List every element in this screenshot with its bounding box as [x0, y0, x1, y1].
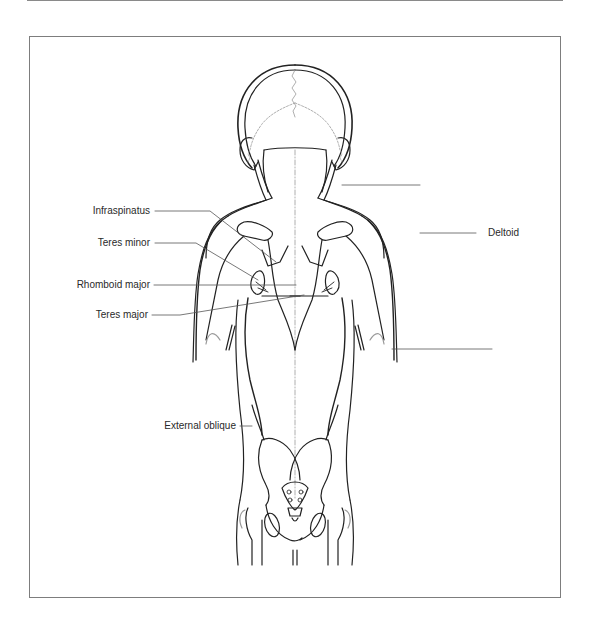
- pelvis: [237, 438, 354, 565]
- label-teres-minor: Teres minor: [66, 237, 150, 249]
- label-rhomboid-major: Rhomboid major: [56, 279, 150, 291]
- label-infraspinatus: Infraspinatus: [66, 205, 150, 217]
- label-external-oblique: External oblique: [140, 420, 236, 432]
- leader-teres-major: [152, 295, 304, 315]
- label-deltoid: Deltoid: [488, 227, 519, 239]
- leader-lines: [152, 185, 492, 426]
- label-teres-major: Teres major: [66, 309, 148, 321]
